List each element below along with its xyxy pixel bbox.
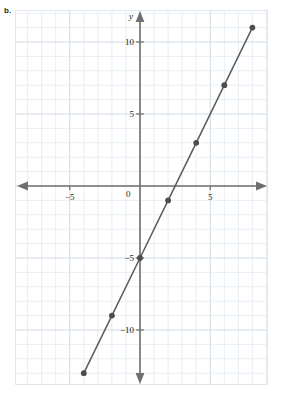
- y-tick-label: −5: [124, 253, 134, 263]
- y-axis-name: y: [129, 11, 133, 21]
- origin-label: 0: [126, 189, 131, 199]
- y-tick-label: 10: [125, 37, 134, 47]
- figure-canvas: b. −55−10−55100y: [0, 0, 281, 395]
- tick-label-layer: −55−10−55100y: [15, 10, 268, 385]
- y-tick-label: 5: [130, 109, 135, 119]
- y-tick-label: −10: [120, 325, 134, 335]
- coordinate-plane: −55−10−55100y: [15, 10, 268, 385]
- part-label: b.: [4, 6, 12, 15]
- x-tick-label: 5: [208, 192, 213, 202]
- x-tick-label: −5: [65, 192, 75, 202]
